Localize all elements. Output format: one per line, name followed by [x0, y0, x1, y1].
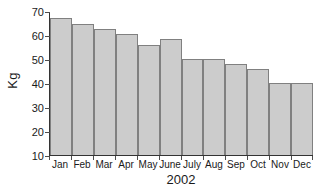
bar-feb: [72, 24, 94, 155]
x-axis-title: 2002: [49, 172, 313, 187]
bar-cell: [225, 12, 247, 155]
y-axis-tick-mark: [45, 12, 50, 13]
y-axis-tick-label: 70: [32, 7, 44, 18]
x-axis-tick-label: Oct: [247, 158, 269, 172]
bar-july: [182, 59, 204, 155]
bar-mar: [94, 29, 116, 155]
bar-cell: [291, 12, 313, 155]
x-axis-tick-label: May: [137, 158, 159, 172]
bars-layer: [50, 12, 313, 155]
x-axis-tick-label: Aug: [203, 158, 225, 172]
x-axis-tick-label: July: [181, 158, 203, 172]
plot-area: [49, 12, 313, 156]
y-axis-tick-mark: [45, 132, 50, 133]
x-axis-tick-label: Sep: [225, 158, 247, 172]
bar-aug: [203, 59, 225, 155]
bar-apr: [116, 34, 138, 155]
bar-oct: [247, 69, 269, 155]
bar-jan: [50, 18, 72, 155]
bar-cell: [203, 12, 225, 155]
y-axis-tick-label-group: 10203040506070: [24, 7, 44, 156]
x-axis-tick-label-group: JanFebMarAprMayJuneJulyAugSepOctNovDec: [49, 158, 313, 172]
x-axis-tick-label: Nov: [269, 158, 291, 172]
bar-cell: [50, 12, 72, 155]
y-axis-tick-mark: [45, 36, 50, 37]
y-axis-title: Kg: [0, 0, 24, 160]
bar-sep: [225, 64, 247, 155]
bar-cell: [182, 12, 204, 155]
x-axis-tick-label: Jan: [49, 158, 71, 172]
bar-chart-figure: Kg 10203040506070 JanFebMarAprMayJuneJul…: [0, 0, 321, 190]
bar-june: [160, 39, 182, 155]
bar-may: [138, 45, 160, 155]
y-axis-tick-label: 40: [32, 79, 44, 90]
x-axis-tick-label: Dec: [291, 158, 313, 172]
bar-cell: [247, 12, 269, 155]
y-axis-tick-mark: [45, 84, 50, 85]
y-axis-tick-label: 60: [32, 31, 44, 42]
y-axis-tick-mark: [45, 108, 50, 109]
bar-cell: [116, 12, 138, 155]
bar-nov: [269, 83, 291, 155]
bar-dec: [291, 83, 313, 155]
y-axis-tick-label: 50: [32, 55, 44, 66]
bar-cell: [138, 12, 160, 155]
x-axis-tick-label: Apr: [115, 158, 137, 172]
x-axis-tick-label: Mar: [93, 158, 115, 172]
y-axis-tick-label: 10: [32, 151, 44, 162]
y-axis-tick-mark: [45, 60, 50, 61]
bar-cell: [160, 12, 182, 155]
bar-cell: [72, 12, 94, 155]
y-axis-tick-label: 20: [32, 127, 44, 138]
x-axis-tick-label: Feb: [71, 158, 93, 172]
y-axis-title-label: Kg: [5, 72, 20, 88]
y-axis-tick-label: 30: [32, 103, 44, 114]
bar-cell: [94, 12, 116, 155]
x-axis-tick-label: June: [159, 158, 181, 172]
bar-cell: [269, 12, 291, 155]
